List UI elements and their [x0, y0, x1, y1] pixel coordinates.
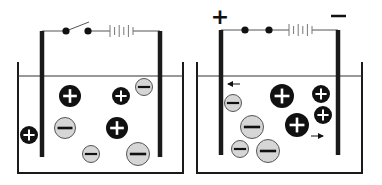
- panel-circuit-closed: +: [197, 4, 362, 173]
- anion-ion: [232, 141, 249, 158]
- switch-contact-dot: [265, 26, 272, 33]
- cation-ion: [106, 117, 128, 139]
- panel-circuit-open: [18, 22, 183, 173]
- cation-ion: [112, 87, 130, 105]
- cation-ion: [20, 126, 38, 144]
- cation-ion: [270, 84, 294, 108]
- positive-terminal-label: +: [211, 4, 229, 29]
- diagram-canvas: +: [0, 0, 382, 185]
- anion-ion: [257, 140, 280, 163]
- cation-ion: [314, 106, 332, 124]
- anion-ion: [241, 116, 264, 139]
- anion-ion: [136, 79, 153, 96]
- switch-contact-dot: [241, 26, 248, 33]
- switch-contact-dot: [84, 27, 91, 34]
- switch-contact-dot: [62, 27, 69, 34]
- anion-ion: [127, 143, 150, 166]
- anion-ion: [83, 146, 100, 163]
- cation-ion: [59, 85, 81, 107]
- anion-ion: [55, 118, 76, 139]
- cation-ion: [285, 113, 309, 137]
- cation-ion: [312, 85, 330, 103]
- anion-ion: [225, 95, 242, 112]
- electrolysis-diagram: +: [0, 0, 382, 185]
